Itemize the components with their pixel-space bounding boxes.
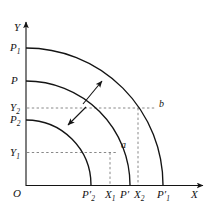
- x-tick-label-P1prime: P′1: [157, 189, 170, 200]
- axis-label-y: Y: [14, 22, 20, 33]
- x-tick-sub-X2: 2: [141, 194, 145, 203]
- y-tick-base-P1: P: [10, 41, 17, 53]
- x-tick-label-Pprime: P′: [120, 189, 129, 200]
- x-tick-base-Pprime: P′: [120, 188, 129, 200]
- ppf-diagram: Y P1 P Y2 P2 Y1 O P′2 X1 P′ X2 P′1 X a b: [0, 0, 219, 219]
- outward-arrow: [83, 81, 102, 104]
- outer-frontier-curve: [26, 48, 163, 185]
- y-tick-sub-Y1: 1: [16, 152, 20, 161]
- x-tick-label-X1: X1: [105, 189, 115, 200]
- y-tick-label-Y1: Y1: [10, 147, 20, 158]
- y-tick-sub-P1: 1: [17, 47, 21, 56]
- x-tick-sub-P1prime: 1: [166, 194, 170, 203]
- x-tick-label-P2prime: P′2: [82, 189, 95, 200]
- diagram-canvas: [0, 0, 219, 219]
- y-tick-label-P1: P1: [10, 42, 20, 53]
- x-tick-base-P2prime: P′: [82, 188, 91, 200]
- y-tick-sub-P2: 2: [17, 119, 21, 128]
- x-tick-sub-P2prime: 2: [91, 194, 95, 203]
- point-label-b: b: [159, 99, 164, 109]
- y-tick-base-P: P: [11, 74, 18, 86]
- y-tick-label-Y2: Y2: [10, 102, 20, 113]
- x-tick-label-X2: X2: [134, 189, 144, 200]
- y-tick-label-P: P: [11, 75, 18, 86]
- origin-label: O: [13, 188, 21, 199]
- middle-frontier-curve: [26, 81, 130, 185]
- y-tick-label-P2: P2: [10, 114, 20, 125]
- x-tick-base-X1: X: [105, 188, 112, 200]
- x-tick-sub-X1: 1: [112, 194, 116, 203]
- axis-label-x: X: [191, 189, 198, 200]
- x-tick-base-P1prime: P′: [157, 188, 166, 200]
- point-label-a: a: [121, 140, 126, 150]
- x-tick-base-X2: X: [134, 188, 141, 200]
- y-tick-base-P2: P: [10, 113, 17, 125]
- inward-arrow: [68, 107, 86, 125]
